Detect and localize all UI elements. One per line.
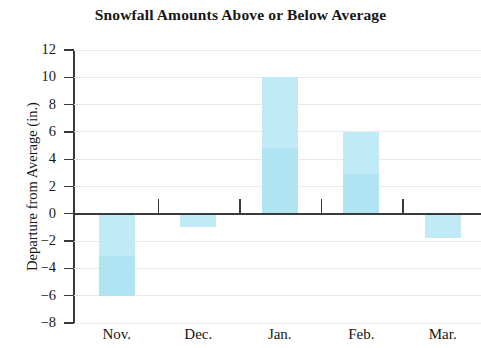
x-axis-tick-label: Mar. — [403, 326, 481, 343]
y-axis-tick — [64, 131, 74, 132]
x-axis-tick — [158, 199, 160, 214]
bar-shade — [262, 148, 298, 214]
y-axis-tick — [64, 240, 74, 241]
y-axis-tick — [64, 49, 74, 50]
y-axis-tick — [64, 186, 74, 187]
y-axis-tick-label: 4 — [14, 151, 56, 166]
bar — [180, 214, 216, 228]
x-axis-tick-label: Nov. — [77, 326, 157, 343]
y-axis-tick — [64, 77, 74, 78]
bar — [99, 214, 135, 296]
y-axis-tick-label: 12 — [14, 42, 56, 57]
gridline — [74, 295, 481, 296]
y-axis-tick — [64, 295, 74, 296]
x-axis-tick-label: Jan. — [240, 326, 320, 343]
y-axis-tick — [64, 213, 74, 214]
y-axis-tick-label: −2 — [14, 233, 56, 248]
plot-area — [74, 50, 481, 323]
y-axis-tick-label: −4 — [14, 260, 56, 275]
gridline — [74, 323, 481, 324]
bar — [262, 77, 298, 214]
x-axis-tick-label: Feb. — [321, 326, 401, 343]
y-axis-tick-label: −8 — [14, 315, 56, 330]
y-axis-tick-label: 6 — [14, 124, 56, 139]
bar — [343, 132, 379, 214]
bar-shade — [343, 174, 379, 213]
y-axis-tick-label: 10 — [14, 69, 56, 84]
bar — [425, 214, 461, 239]
y-axis-tick-label: −6 — [14, 288, 56, 303]
gridline — [74, 50, 481, 51]
y-axis-tick — [64, 159, 74, 160]
y-axis-tick-label: 8 — [14, 97, 56, 112]
y-axis-tick-label: 2 — [14, 179, 56, 194]
x-axis-tick — [321, 199, 323, 214]
y-axis-tick — [64, 268, 74, 269]
x-axis-tick — [402, 199, 404, 214]
x-axis-tick-label: Dec. — [158, 326, 238, 343]
snowfall-bar-chart: Snowfall Amounts Above or Below Average … — [0, 0, 481, 348]
gridline — [74, 268, 481, 269]
chart-title: Snowfall Amounts Above or Below Average — [0, 6, 481, 24]
bar-shade — [99, 256, 135, 295]
y-axis-tick — [64, 322, 74, 323]
y-axis-tick — [64, 104, 74, 105]
gridline — [74, 241, 481, 242]
y-axis-tick-label: 0 — [14, 206, 56, 221]
zero-baseline — [74, 213, 481, 215]
x-axis-tick — [239, 199, 241, 214]
